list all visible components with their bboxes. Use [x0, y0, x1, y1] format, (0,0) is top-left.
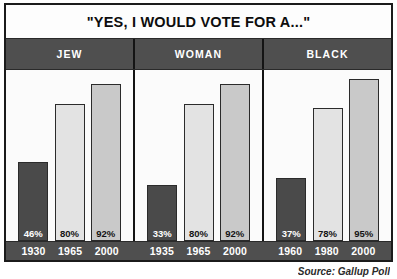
- year-label: 1965: [183, 245, 213, 257]
- year-group-black: 1960 1980 2000: [263, 242, 391, 260]
- bar-value-label: 33%: [153, 229, 172, 241]
- source-note: Source: Gallup Poll: [298, 266, 390, 279]
- bar-group-jew: 46% 80% 92%: [6, 70, 133, 241]
- year-label: 2000: [92, 245, 122, 257]
- category-header-jew: JEW: [6, 39, 133, 69]
- bar: 33%: [147, 185, 177, 241]
- year-label: 2000: [220, 245, 250, 257]
- bar-value-label: 92%: [96, 229, 115, 241]
- year-group-jew: 1930 1965 2000: [6, 242, 134, 260]
- chart-title: "YES, I WOULD VOTE FOR A...": [87, 14, 310, 30]
- bar-value-label: 92%: [225, 229, 244, 241]
- bar-value-label: 95%: [354, 229, 373, 241]
- bar: 37%: [276, 178, 306, 241]
- category-header-black: BLACK: [262, 39, 391, 69]
- category-label: WOMAN: [175, 48, 223, 60]
- year-axis-band: 1930 1965 2000 1935 1965 2000 1960 1980 …: [6, 241, 391, 260]
- bar: 92%: [91, 84, 121, 241]
- category-header-band: JEW WOMAN BLACK: [6, 38, 391, 70]
- bar: 80%: [184, 104, 214, 241]
- bar-value-label: 78%: [318, 229, 337, 241]
- category-label: JEW: [56, 48, 82, 60]
- chart-title-bar: "YES, I WOULD VOTE FOR A...": [6, 5, 391, 38]
- year-label: 1980: [312, 245, 342, 257]
- chart-figure: "YES, I WOULD VOTE FOR A..." JEW WOMAN B…: [0, 0, 397, 279]
- bar-group-black: 37% 78% 95%: [262, 70, 391, 241]
- bar-value-label: 46%: [24, 229, 43, 241]
- bar: 46%: [18, 162, 48, 241]
- bar-value-label: 80%: [60, 229, 79, 241]
- chart-frame: "YES, I WOULD VOTE FOR A..." JEW WOMAN B…: [4, 3, 393, 262]
- plot-area: 46% 80% 92% 33% 80% 92%: [6, 70, 391, 241]
- category-label: BLACK: [306, 48, 348, 60]
- bar-group-woman: 33% 80% 92%: [133, 70, 262, 241]
- year-label: 1935: [147, 245, 177, 257]
- category-header-woman: WOMAN: [133, 39, 262, 69]
- bar-value-label: 37%: [282, 229, 301, 241]
- year-label: 1965: [55, 245, 85, 257]
- bar: 92%: [220, 84, 250, 241]
- bar: 78%: [313, 108, 343, 241]
- bar: 95%: [349, 79, 379, 241]
- year-group-woman: 1935 1965 2000: [134, 242, 262, 260]
- bar-value-label: 80%: [189, 229, 208, 241]
- year-label: 2000: [348, 245, 378, 257]
- year-label: 1930: [19, 245, 49, 257]
- year-label: 1960: [275, 245, 305, 257]
- bar: 80%: [55, 104, 85, 241]
